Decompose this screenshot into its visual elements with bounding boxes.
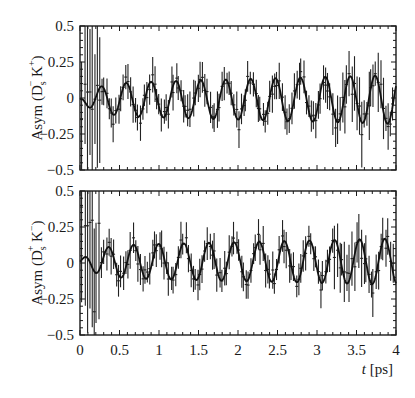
y-tick-label: −0.5 [47, 327, 74, 343]
x-tick-label: 0 [76, 342, 84, 358]
x-tick-label: 2 [234, 342, 242, 358]
top-plot-frame [80, 26, 396, 170]
x-tick-label: 3 [313, 342, 321, 358]
y-tick-label: 0.5 [55, 18, 74, 34]
x-tick-labels: 00.511.522.533.54 [76, 342, 400, 358]
y-tick-label: 0.25 [48, 219, 74, 235]
y-tick-label: 0.25 [48, 54, 74, 70]
x-tick-label: 1 [155, 342, 163, 358]
top-y-axis-title: Asym (Ds− K+) [25, 55, 48, 140]
x-tick-label: 3.5 [347, 342, 366, 358]
x-axis-title: t [ps] [362, 361, 393, 377]
y-tick-label: 0 [67, 255, 75, 271]
x-tick-label: 4 [392, 342, 400, 358]
y-tick-label: 0.5 [55, 183, 74, 199]
top-panel: 0.50.250−0.25−0.5 Asym (Ds− K+) [25, 18, 396, 178]
top-ticks [80, 26, 396, 170]
y-tick-label: −0.5 [47, 162, 74, 178]
x-tick-label: 2.5 [268, 342, 287, 358]
top-data-points [80, 26, 394, 170]
bottom-panel: 0.50.250−0.25−0.5 00.511.522.533.54 Asym… [25, 183, 400, 358]
asymmetry-figure: 0.50.250−0.25−0.5 Asym (Ds− K+) 0.50.250… [0, 0, 415, 398]
bottom-y-axis-title: Asym (Ds+ K−) [25, 220, 48, 305]
x-tick-label: 0.5 [110, 342, 129, 358]
y-tick-label: 0 [67, 90, 75, 106]
x-tick-label: 1.5 [189, 342, 208, 358]
